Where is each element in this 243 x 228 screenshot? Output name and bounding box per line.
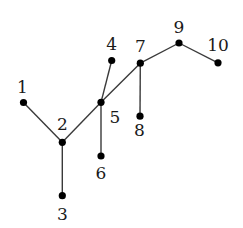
node-6-dot [97, 152, 104, 159]
node-10-label: 10 [207, 35, 229, 55]
node-9-dot [175, 39, 182, 46]
node-5-label: 5 [110, 107, 121, 127]
node-1-dot [20, 99, 27, 106]
node-9-label: 9 [174, 17, 185, 37]
node-5-dot [97, 99, 104, 106]
node-4-dot [108, 57, 115, 64]
node-4-label: 4 [106, 34, 117, 54]
node-7-dot [137, 60, 144, 67]
tree-diagram: 12345678910 [0, 0, 243, 228]
node-7-label: 7 [135, 36, 146, 56]
node-8-label: 8 [134, 120, 145, 140]
node-2-label: 2 [57, 114, 68, 134]
node-3-label: 3 [57, 204, 68, 224]
node-6-label: 6 [96, 163, 107, 183]
node-3-dot [59, 192, 66, 199]
node-1-label: 1 [17, 77, 28, 97]
node-2-dot [59, 139, 66, 146]
node-10-dot [214, 59, 221, 66]
